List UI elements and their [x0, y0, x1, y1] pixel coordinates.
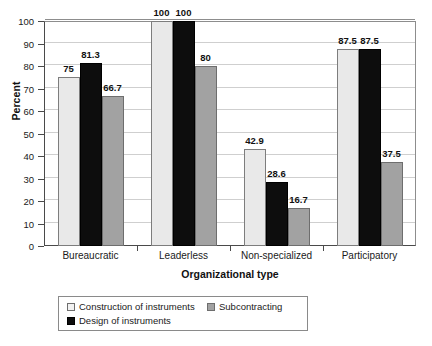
bar-value-label: 80	[200, 52, 211, 63]
legend-item-design-of-instruments: Design of instruments	[67, 315, 171, 326]
bar-value-label: 37.5	[382, 148, 401, 159]
bar-value-label: 81.3	[81, 49, 100, 60]
legend-label: Subcontracting	[219, 301, 282, 312]
y-axis-tick-label: 100	[0, 16, 34, 27]
black-swatch-icon	[67, 317, 75, 325]
bar-chart: Percent 0102030405060708090100 7581.366.…	[0, 0, 432, 346]
x-axis-category-label: Participatory	[323, 250, 416, 261]
y-axis-tick-label: 60	[0, 106, 34, 117]
bar-value-label: 87.5	[360, 35, 379, 46]
x-axis-title: Organizational type	[44, 268, 416, 280]
y-axis-tick	[38, 246, 44, 247]
y-axis-tick-label: 90	[0, 38, 34, 49]
legend-item-subcontracting: Subcontracting	[207, 301, 282, 312]
y-axis-tick-label: 80	[0, 61, 34, 72]
y-axis-tick-label: 70	[0, 83, 34, 94]
bar-value-label: 66.7	[103, 82, 122, 93]
bar-group: 10010080	[137, 21, 230, 246]
x-axis-category-label: Non-specialized	[230, 250, 323, 261]
bar[interactable]: 81.3	[80, 63, 102, 246]
chart-legend: Construction of instruments Subcontracti…	[58, 296, 308, 331]
bar[interactable]: 100	[173, 21, 195, 246]
bar[interactable]: 75	[58, 77, 80, 246]
x-axis-category-label: Bureaucratic	[44, 250, 137, 261]
y-axis-tick-label: 0	[0, 241, 34, 252]
legend-row-1: Construction of instruments Subcontracti…	[59, 301, 307, 316]
gridline	[45, 19, 415, 20]
bar[interactable]: 100	[151, 21, 173, 246]
bar[interactable]: 37.5	[381, 162, 403, 246]
bar[interactable]: 80	[195, 66, 217, 246]
bar[interactable]: 42.9	[244, 149, 266, 246]
bars-layer: 7581.366.71001008042.928.616.787.587.537…	[44, 21, 416, 246]
legend-label: Construction of instruments	[79, 301, 195, 312]
light-gray-swatch-icon	[67, 303, 75, 311]
bar-value-label: 100	[154, 7, 170, 18]
bar-value-label: 75	[63, 63, 74, 74]
bar[interactable]: 16.7	[288, 208, 310, 246]
medium-gray-swatch-icon	[207, 303, 215, 311]
bar[interactable]: 66.7	[102, 96, 124, 246]
legend-row-2: Design of instruments	[59, 315, 307, 330]
bar[interactable]: 28.6	[266, 182, 288, 246]
y-axis-tick-label: 40	[0, 151, 34, 162]
bar-value-label: 28.6	[267, 168, 286, 179]
bar[interactable]: 87.5	[337, 49, 359, 246]
legend-item-construction-of-instruments: Construction of instruments	[67, 301, 195, 312]
y-axis-tick-label: 50	[0, 128, 34, 139]
y-axis-tick-label: 10	[0, 218, 34, 229]
bar-value-label: 100	[176, 7, 192, 18]
y-axis-tick-label: 20	[0, 196, 34, 207]
bar-value-label: 16.7	[289, 194, 308, 205]
bar[interactable]: 87.5	[359, 49, 381, 246]
bar-value-label: 42.9	[245, 135, 264, 146]
y-axis-tick-label: 30	[0, 173, 34, 184]
bar-value-label: 87.5	[338, 35, 357, 46]
legend-label: Design of instruments	[79, 315, 171, 326]
bar-group: 7581.366.7	[44, 21, 137, 246]
bar-group: 42.928.616.7	[230, 21, 323, 246]
bar-group: 87.587.537.5	[323, 21, 416, 246]
x-axis-category-label: Leaderless	[137, 250, 230, 261]
